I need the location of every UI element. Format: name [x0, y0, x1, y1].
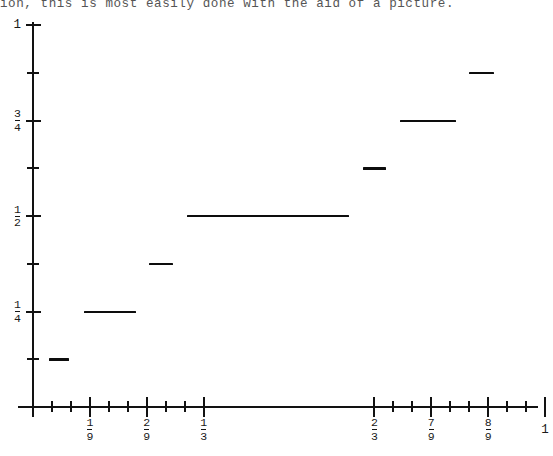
x-tick-minor [184, 401, 186, 412]
x-tick-label: 23 [354, 417, 394, 442]
x-tick-minor [525, 401, 527, 412]
x-tick-label: 29 [127, 417, 167, 442]
y-tick-major [26, 311, 41, 313]
fraction-label: 79 [428, 417, 435, 442]
step-segment [363, 167, 386, 169]
step-segment [469, 72, 494, 74]
y-tick-minor [27, 263, 39, 265]
x-tick-major [487, 397, 489, 417]
fraction-label: 29 [143, 417, 150, 442]
x-tick-label: 13 [184, 417, 224, 442]
x-tick-minor [468, 401, 470, 412]
fraction-label: 34 [14, 108, 21, 133]
x-tick-label: 1 [525, 424, 553, 437]
fraction-label: 23 [371, 417, 378, 442]
y-tick-minor [27, 167, 39, 169]
step-segment [49, 358, 69, 360]
step-segment [187, 215, 349, 217]
x-tick-major [203, 397, 205, 417]
fraction-label: 89 [485, 417, 492, 442]
x-tick-minor [70, 401, 72, 412]
x-tick-label: 79 [411, 417, 451, 442]
fraction-label: 12 [14, 204, 21, 229]
y-tick-label: 1 [0, 19, 21, 32]
x-tick-minor [108, 401, 110, 412]
x-tick-minor [506, 401, 508, 412]
x-tick-major [89, 397, 91, 417]
step-segment [149, 263, 173, 265]
y-tick-label: 12 [0, 204, 21, 229]
x-tick-major [544, 397, 546, 417]
y-tick-minor [27, 358, 39, 360]
fraction-label: 14 [14, 299, 21, 324]
y-tick-major [26, 215, 41, 217]
fraction-label: 13 [200, 417, 207, 442]
x-tick-label: 89 [468, 417, 508, 442]
y-tick-label: 34 [0, 108, 21, 133]
x-tick-minor [392, 401, 394, 412]
whole-number-label: 1 [541, 424, 549, 437]
x-tick-minor [449, 401, 451, 412]
x-tick-minor [165, 401, 167, 412]
x-tick-label: 19 [70, 417, 110, 442]
fraction-label: 19 [86, 417, 93, 442]
x-tick-major [373, 397, 375, 417]
y-tick-major [26, 24, 41, 26]
x-tick-minor [127, 401, 129, 412]
y-tick-minor [27, 72, 39, 74]
y-tick-major [26, 120, 41, 122]
x-tick-minor [51, 401, 53, 412]
y-tick-label: 14 [0, 299, 21, 324]
step-segment [84, 311, 136, 313]
x-axis-line [18, 406, 538, 408]
step-segment [400, 120, 456, 122]
x-tick-minor [411, 401, 413, 412]
x-tick-major [146, 397, 148, 417]
x-tick-major [430, 397, 432, 417]
whole-number-label: 1 [13, 19, 21, 32]
x-tick-major [32, 397, 34, 417]
